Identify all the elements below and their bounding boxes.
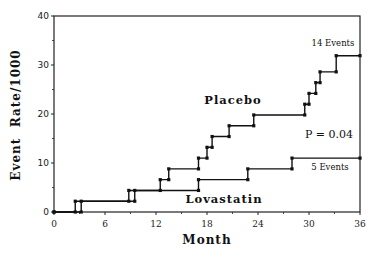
step-marker: [205, 146, 208, 149]
x-tick-label: 18: [201, 219, 213, 229]
step-marker: [159, 178, 162, 181]
step-marker: [197, 178, 200, 181]
step-marker: [252, 113, 255, 116]
step-marker: [246, 178, 249, 181]
step-marker: [52, 210, 55, 213]
step-marker: [318, 81, 321, 84]
step-marker: [303, 103, 306, 106]
x-tick-label: 12: [150, 219, 161, 229]
step-marker: [133, 200, 136, 203]
y-tick-label: 0: [43, 207, 49, 217]
step-marker: [80, 210, 83, 213]
step-marker: [127, 200, 130, 203]
x-tick-label: 6: [102, 219, 108, 229]
step-marker: [335, 54, 338, 57]
y-axis-title: Event Rate/1000: [9, 49, 23, 180]
x-tick-label: 0: [51, 219, 57, 229]
x-axis-title: Month: [182, 233, 231, 247]
step-marker: [228, 135, 231, 138]
step-marker: [211, 146, 214, 149]
y-tick-label: 40: [38, 11, 50, 21]
step-marker: [358, 54, 361, 57]
step-marker: [74, 200, 77, 203]
step-marker: [307, 92, 310, 95]
step-marker: [358, 157, 361, 160]
step-marker: [127, 189, 130, 192]
step-marker: [307, 103, 310, 106]
step-marker: [290, 167, 293, 170]
step-marker: [167, 167, 170, 170]
step-marker: [228, 124, 231, 127]
step-marker: [252, 124, 255, 127]
p-value-annotation: P = 0.04: [305, 128, 353, 141]
placebo-events-annotation: 14 Events: [312, 38, 355, 48]
step-marker: [197, 167, 200, 170]
step-marker: [290, 157, 293, 160]
step-marker: [80, 200, 83, 203]
x-tick-label: 36: [354, 219, 366, 229]
y-tick-label: 30: [38, 60, 50, 70]
x-tick-label: 30: [303, 219, 315, 229]
y-tick-label: 10: [38, 158, 50, 168]
step-marker: [246, 167, 249, 170]
y-axis-ticks: 010203040: [38, 11, 54, 217]
step-marker: [314, 81, 317, 84]
step-marker: [197, 157, 200, 160]
lovastatin-label: Lovastatin: [185, 192, 262, 206]
y-tick-label: 20: [38, 109, 50, 119]
event-rate-chart: 010203040 061218243036 Month Event Rate/…: [0, 0, 374, 258]
step-marker: [205, 157, 208, 160]
x-axis-ticks: 061218243036: [51, 212, 366, 229]
step-marker: [167, 178, 170, 181]
step-marker: [318, 70, 321, 73]
step-marker: [303, 113, 306, 116]
step-marker: [335, 70, 338, 73]
placebo-label: Placebo: [204, 93, 262, 107]
step-marker: [314, 92, 317, 95]
x-tick-label: 24: [252, 219, 264, 229]
step-marker: [211, 135, 214, 138]
lovastatin-events-annotation: 5 Events: [311, 162, 348, 172]
